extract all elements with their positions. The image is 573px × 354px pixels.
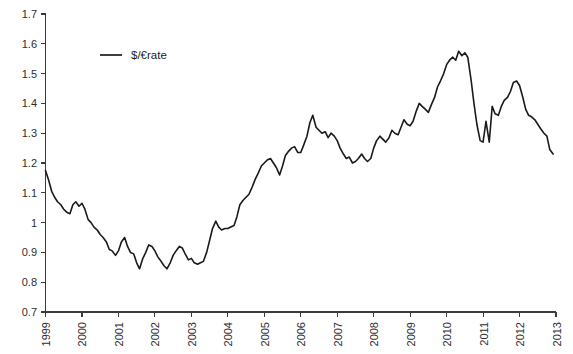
y-tick-label: 1.6	[22, 38, 37, 50]
chart-container: 0.70.80.911.11.21.31.41.51.61.7 19992000…	[0, 0, 573, 354]
x-tick-label: 2010	[441, 322, 453, 346]
x-tick-label: 2004	[222, 322, 234, 346]
y-axis: 0.70.80.911.11.21.31.41.51.61.7	[22, 8, 46, 318]
x-axis: 1999200020012002200320042005200620072008…	[40, 312, 563, 346]
y-tick-label: 1.4	[22, 97, 37, 109]
x-tick-label: 2003	[186, 322, 198, 346]
y-tick-label: 1.3	[22, 127, 37, 139]
y-tick-label: 1	[31, 217, 37, 229]
y-tick-label: 1.2	[22, 157, 37, 169]
line-chart: 0.70.80.911.11.21.31.41.51.61.7 19992000…	[0, 0, 573, 354]
x-tick-label: 2007	[332, 322, 344, 346]
legend-label: $/€rate	[131, 49, 167, 61]
y-tick-label: 1.7	[22, 8, 37, 20]
x-tick-label: 2001	[113, 322, 125, 346]
x-tick-label: 2008	[368, 322, 380, 346]
x-tick-label: 1999	[40, 322, 52, 346]
series-line-0	[46, 51, 554, 269]
x-tick-label: 2005	[259, 322, 271, 346]
y-tick-label: 1.5	[22, 68, 37, 80]
x-tick-label: 2013	[551, 322, 563, 346]
y-tick-label: 0.9	[22, 246, 37, 258]
x-tick-label: 2009	[405, 322, 417, 346]
chart-legend: $/€rate	[100, 49, 167, 61]
y-tick-label: 0.8	[22, 276, 37, 288]
data-series-group	[46, 51, 554, 269]
x-tick-label: 2002	[149, 322, 161, 346]
x-tick-label: 2006	[295, 322, 307, 346]
y-tick-label: 0.7	[22, 306, 37, 318]
x-tick-label: 2000	[76, 322, 88, 346]
x-tick-label: 2011	[478, 322, 490, 346]
x-tick-label: 2012	[514, 322, 526, 346]
y-tick-label: 1.1	[22, 187, 37, 199]
